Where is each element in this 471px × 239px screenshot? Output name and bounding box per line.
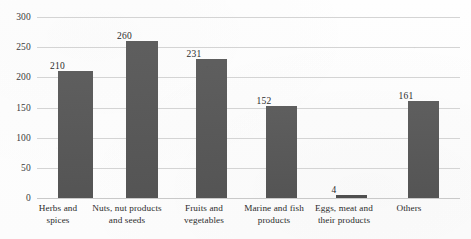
x-axis-label-line: their products [306,215,382,227]
gridline-200 [37,77,460,78]
y-tick-label-0: 0 [0,193,31,203]
value-label-nuts-nut-products-and-seeds: 260 [108,31,141,41]
x-axis-label-line: Eggs, meat and [306,203,382,215]
y-tick-label-250: 250 [0,42,31,52]
x-axis-label-line: Herbs and spices [28,203,88,226]
value-label-eggs-meat-and-their-products: 4 [318,185,350,195]
gridline-300 [37,17,460,18]
chart-page: 300 250 200 150 100 50 0 210 260 231 152… [0,0,471,239]
value-label-others: 161 [390,91,422,101]
x-axis-label-line: Others [386,203,432,215]
x-axis-label-fruits-and-vegetables: Fruits and vegetables [173,203,235,226]
x-axis-label-line: products [238,215,310,227]
x-axis-label-marine-and-fish-products: Marine and fish products [238,203,310,226]
gridline-150 [37,108,460,109]
x-axis-label-herbs-and-spices: Herbs and spices [28,203,88,226]
bar-fruits-and-vegetables[interactable] [196,59,227,198]
bar-marine-and-fish-products[interactable] [266,106,297,198]
bar-herbs-and-spices[interactable] [58,71,93,198]
x-axis-label-eggs-meat-and-their-products: Eggs, meat and their products [306,203,382,226]
y-tick-label-300: 300 [0,12,31,22]
value-label-marine-and-fish-products: 152 [248,96,280,106]
y-tick-label-100: 100 [0,133,31,143]
gridline-250 [37,47,460,48]
bar-nuts-nut-products-and-seeds[interactable] [126,41,158,198]
y-tick-label-150: 150 [0,103,31,113]
x-axis-label-line: Marine and fish [238,203,310,215]
gridline-50 [37,168,460,169]
value-label-herbs-and-spices: 210 [40,61,75,71]
bar-others[interactable] [408,101,439,198]
y-tick-label-50: 50 [0,163,31,173]
x-axis-label-nuts-nut-products-and-seeds: Nuts, nut products and seeds [90,203,164,226]
x-axis-label-line: and seeds [90,215,164,227]
x-axis-label-line: Nuts, nut products [90,203,164,215]
x-axis-label-others: Others [386,203,432,215]
x-axis-label-line: Fruits and [173,203,235,215]
bar-eggs-meat-and-their-products[interactable] [336,195,367,198]
value-label-fruits-and-vegetables: 231 [178,49,210,59]
plot-area [37,17,460,198]
x-axis-label-line: vegetables [173,215,235,227]
gridline-100 [37,138,460,139]
gridline-0-baseline [37,198,460,199]
y-tick-label-200: 200 [0,72,31,82]
